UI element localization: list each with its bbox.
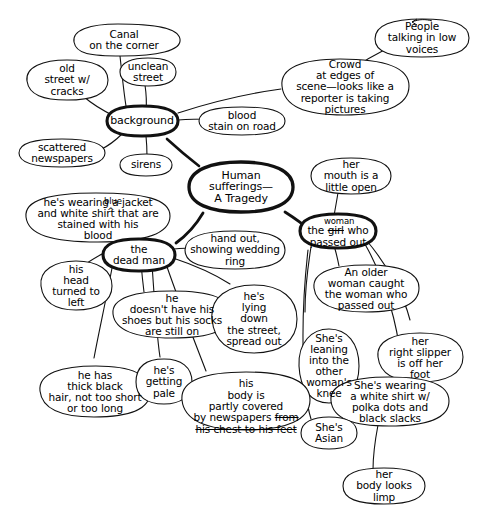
node-label: unclean street bbox=[126, 61, 171, 83]
node-label: he's getting pale bbox=[144, 365, 185, 398]
node-label: sirens bbox=[129, 159, 163, 170]
node-sirens[interactable]: sirens bbox=[117, 152, 175, 178]
node-label: the dead man bbox=[111, 244, 167, 266]
node-an-older-woman-caught[interactable]: An older woman caught the woman who pass… bbox=[310, 262, 422, 316]
node-label: his head turned to left bbox=[50, 264, 102, 309]
node-label: he's lying down the street, spread out bbox=[224, 291, 283, 347]
node-he-has-thick-black-hair[interactable]: he has thick black hair, not too short o… bbox=[36, 363, 154, 421]
node-human-sufferings-a-tragedy[interactable]: Human sufferings— A Tragedy bbox=[185, 159, 297, 215]
node-canal-on-the-corner[interactable]: Canal on the corner bbox=[64, 22, 184, 58]
node-label: her mouth is a little open bbox=[322, 159, 381, 192]
node-label: An older woman caught the woman who pass… bbox=[323, 267, 410, 312]
node-label: her right slipper is off her foot bbox=[387, 336, 453, 381]
node-old-street-with-cracks[interactable]: old street w/ cracks bbox=[23, 57, 111, 103]
node-background[interactable]: background bbox=[103, 104, 181, 138]
node-label: blood stain on road bbox=[206, 110, 278, 132]
node-body-covered-by-newspapers[interactable]: hisbody ispartly coveredby newspapers fr… bbox=[178, 368, 314, 434]
line-partly-covered: partly covered bbox=[209, 400, 283, 412]
node-hand-out-showing-wedding-ring[interactable]: hand out, showing wedding ring bbox=[182, 228, 288, 272]
node-hes-wearing-blue-jacket[interactable]: he's wearing a jacket and white shirt th… bbox=[22, 190, 174, 248]
struck-text-chest-feet: his chest to his feet bbox=[195, 423, 296, 435]
node-her-right-slipper-off-foot[interactable]: her right slipper is off her foot bbox=[374, 330, 466, 386]
node-unclean-street[interactable]: unclean street bbox=[117, 56, 179, 88]
line-by-newspapers: by newspapers bbox=[193, 411, 274, 423]
node-people-talking-in-low-voices[interactable]: People talking in low voices bbox=[372, 16, 472, 60]
node-label: he has thick black hair, not too short o… bbox=[47, 370, 144, 415]
node-label: he doesn't have his shoes but his socks … bbox=[120, 293, 224, 338]
node-label: he's wearing a jacket and white shirt th… bbox=[35, 197, 160, 242]
concept-map-canvas: Canal on the corner old street w/ cracks… bbox=[0, 0, 484, 518]
line-passed-out: passed out bbox=[310, 236, 367, 248]
node-blood-stain-on-road[interactable]: blood stain on road bbox=[196, 104, 288, 138]
node-he-doesnt-have-shoes[interactable]: he doesn't have his shoes but his socks … bbox=[109, 288, 235, 342]
node-scattered-newspapers[interactable]: scattered newspapers bbox=[16, 136, 108, 170]
node-his-head-turned-to-left[interactable]: his head turned to left bbox=[37, 258, 115, 314]
node-crowd-at-edges-of-scene[interactable]: Crowd at edges of scene—looks like a rep… bbox=[278, 56, 412, 118]
inserted-word-woman: woman bbox=[324, 217, 354, 226]
line-body-is: body is bbox=[228, 389, 265, 401]
node-label: She's leaning into the other woman's kne… bbox=[304, 333, 354, 400]
node-label: her body looks limp bbox=[354, 469, 413, 502]
node-label: Canal on the corner bbox=[87, 29, 160, 51]
node-label: hand out, showing wedding ring bbox=[188, 233, 281, 266]
node-label: Human sufferings— A Tragedy bbox=[207, 170, 275, 205]
line-his: his bbox=[239, 377, 254, 389]
node-label: She's wearing a white shirt w/ polka dot… bbox=[348, 380, 431, 425]
inserted-word-blue: blue bbox=[104, 197, 122, 206]
node-label: scattered newspapers bbox=[29, 142, 95, 164]
node-woman-who-passed-out[interactable]: the girl whopassed out woman bbox=[296, 211, 380, 251]
insertion-caret: ^ bbox=[107, 207, 114, 216]
node-her-mouth-is-a-little-open[interactable]: her mouth is a little open bbox=[308, 155, 394, 197]
node-label: Crowd at edges of scene—looks like a rep… bbox=[294, 59, 396, 115]
node-label: People talking in low voices bbox=[386, 21, 458, 54]
struck-text-from: from bbox=[275, 411, 299, 423]
node-label: She's Asian bbox=[313, 422, 345, 444]
node-label: background bbox=[108, 115, 176, 127]
node-her-body-looks-limp[interactable]: her body looks limp bbox=[340, 464, 428, 508]
node-label: old street w/ cracks bbox=[42, 63, 91, 96]
node-label: hisbody ispartly coveredby newspapers fr… bbox=[191, 367, 300, 435]
